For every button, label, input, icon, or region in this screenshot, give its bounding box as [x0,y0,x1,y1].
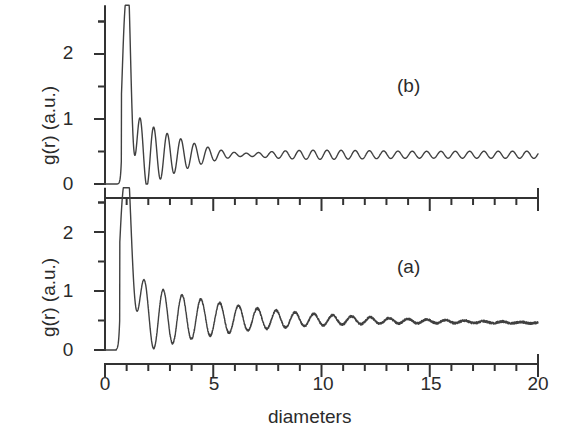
y-tick-label-bottom-0: 0 [60,339,76,361]
x-tick-label-15: 15 [415,373,447,395]
y-axis-label-top: g(r) (a.u.) [38,86,60,165]
panel-tag-a: (a) [397,256,420,278]
x-tick-label-5: 5 [203,373,225,395]
y-tick-label-top-1: 1 [60,108,76,130]
plot-canvas [0,0,570,443]
x-axis-label: diameters [268,406,351,428]
y-axis-label-bottom: g(r) (a.u.) [38,258,60,337]
x-tick-label-20: 20 [522,373,554,395]
figure-container: g(r) (a.u.) g(r) (a.u.) diameters (b) (a… [0,0,570,443]
y-tick-label-top-2: 2 [60,42,76,64]
y-tick-label-bottom-1: 1 [60,280,76,302]
x-tick-label-10: 10 [307,373,339,395]
x-tick-label-0: 0 [94,373,116,395]
panel-tag-b: (b) [397,75,420,97]
y-tick-label-bottom-2: 2 [60,222,76,244]
y-tick-label-top-0: 0 [60,173,76,195]
